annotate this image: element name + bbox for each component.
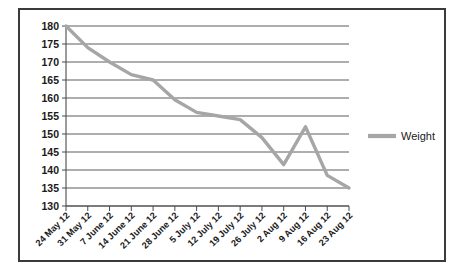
series-line-weight	[66, 26, 349, 188]
x-tick-labels: 24 May 1231 May 127 June 1214 June 1221 …	[34, 210, 355, 250]
y-tick-label: 175	[41, 38, 59, 50]
y-tick-label: 180	[41, 20, 59, 32]
y-tick-labels: 130135140145150155160165170175180	[41, 20, 59, 212]
weight-line-chart: 130135140145150155160165170175180 24 May…	[20, 10, 444, 260]
y-gridlines	[66, 26, 349, 206]
y-tick-label: 155	[41, 110, 59, 122]
chart-figure-frame: 130135140145150155160165170175180 24 May…	[18, 8, 446, 262]
x-tick-marks	[66, 206, 349, 211]
y-tick-label: 145	[41, 146, 59, 158]
y-tick-label: 150	[41, 128, 59, 140]
y-tick-label: 135	[41, 182, 59, 194]
y-tick-label: 165	[41, 74, 59, 86]
legend-label: Weight	[401, 130, 435, 142]
y-tick-label: 170	[41, 56, 59, 68]
y-tick-label: 160	[41, 92, 59, 104]
y-tick-label: 130	[41, 200, 59, 212]
chart-plot-container: 130135140145150155160165170175180 24 May…	[20, 10, 444, 260]
y-tick-marks	[62, 26, 66, 206]
screenshot-page: 130135140145150155160165170175180 24 May…	[0, 0, 475, 277]
chart-legend: Weight	[368, 130, 435, 142]
data-series-group	[66, 26, 349, 188]
y-tick-label: 140	[41, 164, 59, 176]
